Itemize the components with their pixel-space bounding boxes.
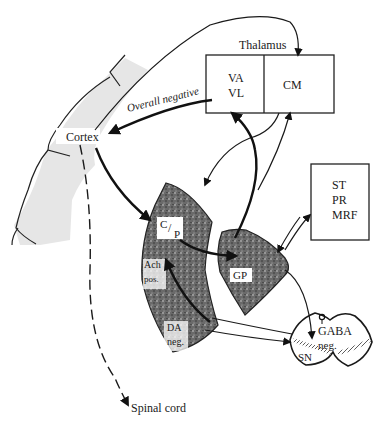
spinal-cord-label: Spinal cord [131, 401, 186, 415]
thalamus: Thalamus VA VL CM [206, 38, 334, 113]
gp-shape [218, 229, 289, 315]
overall-negative-label: Overall negative [126, 84, 200, 113]
basal-ganglia-diagram: Thalamus VA VL CM ST PR MRF C / P Ach po… [0, 0, 382, 423]
cortex-region [12, 55, 148, 245]
mrf-label: MRF [332, 208, 358, 222]
sn-label: SN [298, 351, 312, 363]
c-label: C [160, 218, 167, 230]
da-neg-label: neg. [167, 336, 184, 347]
ach-label: Ach [144, 259, 161, 270]
gp-label: GP [233, 269, 247, 281]
pr-label: PR [332, 193, 347, 207]
thalamus-cm: CM [283, 78, 302, 92]
gaba-label: GABA [318, 324, 352, 338]
striatum: C / P Ach pos. DA neg. [142, 183, 218, 352]
cortex-label: Cortex [66, 130, 99, 144]
da-label: DA [167, 322, 182, 333]
st-label: ST [332, 178, 347, 192]
p-label: P [174, 228, 180, 240]
substantia-nigra: GABA neg. SN [290, 313, 372, 366]
thalamus-box [206, 55, 334, 113]
gaba-neg-label: neg. [318, 339, 337, 351]
thalamus-va: VA [228, 71, 244, 85]
st-pr-mrf: ST PR MRF [311, 164, 369, 240]
thalamus-title: Thalamus [239, 38, 287, 52]
globus-pallidus: GP [218, 229, 289, 315]
ach-pos-label: pos. [144, 274, 159, 284]
thalamus-vl: VL [228, 86, 244, 100]
